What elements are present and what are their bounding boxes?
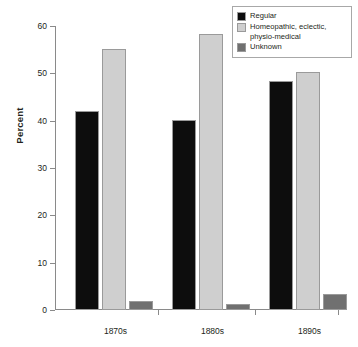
x-tick-mark-0 [158, 310, 159, 315]
bar-1890s-homeopathic [296, 72, 320, 310]
legend-label-unknown: Unknown [250, 42, 282, 52]
bar-1870s-unknown [129, 301, 153, 310]
y-tick-label: 30 [38, 163, 47, 173]
legend-item-homeopathic: Homeopathic, eclectic, physio-medical [237, 22, 346, 41]
bar-1890s-regular [269, 81, 293, 310]
y-axis-line [55, 26, 56, 310]
y-tick-label: 0 [42, 305, 47, 315]
legend-swatch-regular [237, 12, 246, 21]
x-axis-label-1890s: 1890s [269, 326, 350, 336]
bar-group-1890s: 1890s [269, 26, 350, 310]
y-tick-label: 20 [38, 210, 47, 220]
bar-1870s-homeopathic [102, 49, 126, 310]
bar-1880s-homeopathic [199, 34, 223, 310]
legend-item-unknown: Unknown [237, 42, 346, 52]
x-axis-label-1870s: 1870s [75, 326, 156, 336]
legend-label-homeopathic-line1: Homeopathic, eclectic, [250, 22, 326, 31]
bar-group-1870s: 1870s [75, 26, 156, 310]
y-tick-mark [50, 215, 55, 216]
bar-group-1880s: 1880s [172, 26, 253, 310]
legend: Regular Homeopathic, eclectic, physio-me… [232, 6, 352, 58]
legend-label-homeopathic: Homeopathic, eclectic, physio-medical [250, 22, 326, 41]
y-tick-mark [50, 310, 55, 311]
x-tick-mark-2 [338, 310, 339, 315]
x-axis-label-1880s: 1880s [172, 326, 253, 336]
y-tick-label: 10 [38, 258, 47, 268]
legend-label-homeopathic-line2: physio-medical [250, 32, 326, 42]
y-axis-title: Percent [14, 91, 25, 161]
bar-chart: Percent 0102030405060 1870s1880s1890s Re… [0, 0, 358, 347]
y-tick-label: 40 [38, 116, 47, 126]
legend-swatch-unknown [237, 43, 246, 52]
x-tick-mark-1 [255, 310, 256, 315]
y-tick-mark [50, 168, 55, 169]
y-tick-mark [50, 73, 55, 74]
legend-item-regular: Regular [237, 11, 346, 21]
y-tick-mark [50, 121, 55, 122]
bar-1880s-regular [172, 120, 196, 310]
y-tick-label: 50 [38, 68, 47, 78]
y-tick-mark [50, 26, 55, 27]
y-tick-mark [50, 263, 55, 264]
bar-1870s-regular [75, 111, 99, 310]
bar-1890s-unknown [323, 294, 347, 310]
bar-1880s-unknown [226, 304, 250, 310]
plot-area: 0102030405060 1870s1880s1890s [55, 26, 340, 310]
y-tick-label: 60 [38, 21, 47, 31]
legend-label-regular: Regular [250, 11, 277, 21]
legend-swatch-homeopathic [237, 23, 246, 32]
